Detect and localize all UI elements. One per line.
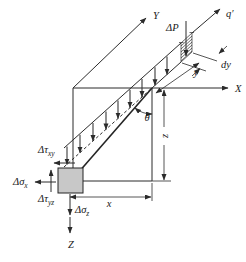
element-square	[58, 168, 83, 193]
delta-p-label: ΔP	[165, 22, 179, 33]
theta-label: θ	[144, 112, 149, 123]
z-dimension-label: z	[159, 134, 170, 139]
figure-canvas: X Y	[0, 0, 246, 262]
z-axis-label: Z	[68, 239, 74, 250]
dy-dimension-label: dy	[221, 59, 231, 70]
load-intensity-label: q′	[226, 8, 234, 19]
x-axis-label: X	[234, 83, 242, 94]
stress-diagram: X Y	[0, 0, 246, 262]
x-dimension-label: x	[106, 198, 112, 209]
background	[0, 0, 246, 262]
